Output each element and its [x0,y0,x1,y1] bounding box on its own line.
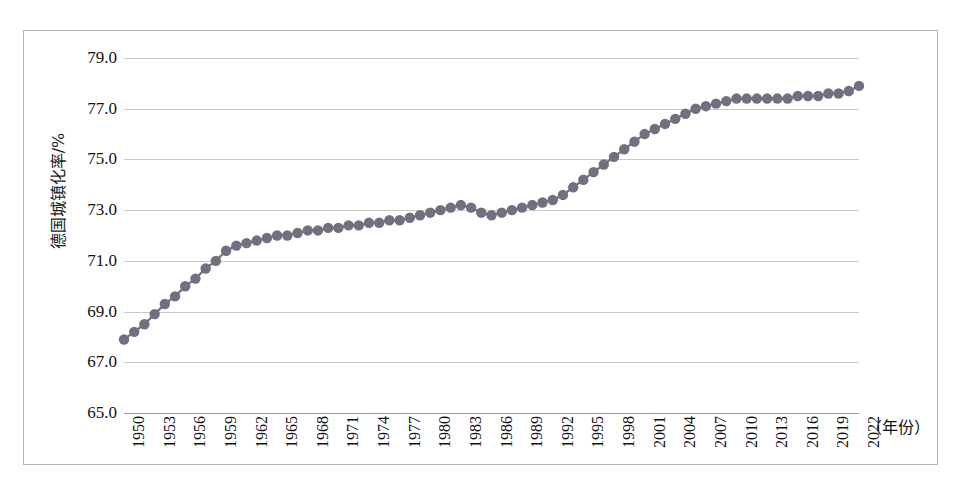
x-axis-tick-label: 2019 [834,416,852,448]
data-point [323,223,333,233]
data-point [844,86,854,96]
data-point [782,93,792,103]
data-point [170,291,180,301]
data-point [650,124,660,134]
data-point [435,205,445,215]
y-axis-tick-label: 79.0 [57,48,117,68]
data-point [343,220,353,230]
data-point [823,88,833,98]
y-axis-tick-label: 67.0 [57,352,117,372]
data-point [119,334,129,344]
data-point [333,223,343,233]
x-axis-tick-label: 1962 [253,416,271,448]
data-point [364,218,374,228]
data-point [701,101,711,111]
x-axis-tick-label: 2010 [743,416,761,448]
x-axis-tick-label: 1980 [436,416,454,448]
data-point [507,205,517,215]
data-point [354,220,364,230]
x-axis-tick-label: 1986 [498,416,516,448]
data-point [190,273,200,283]
data-point [517,202,527,212]
x-axis-tick-label: 1959 [222,416,240,448]
data-point [149,309,159,319]
x-axis-tick-label: 1968 [314,416,332,448]
data-point [200,263,210,273]
data-point [660,119,670,129]
data-point [742,93,752,103]
data-point [486,210,496,220]
data-point [803,91,813,101]
x-axis-tick-label: 1956 [191,416,209,448]
data-point [599,159,609,169]
data-point [476,207,486,217]
data-point [670,114,680,124]
data-point [609,152,619,162]
data-point [721,96,731,106]
data-point [639,129,649,139]
x-axis-tick-label: 1971 [344,416,362,448]
x-axis-unit-label: （年份） [866,414,930,438]
data-point [731,93,741,103]
plot-area: 79.077.075.073.071.069.067.065.0 1950195… [124,58,859,413]
data-point [241,238,251,248]
x-axis-tick-label: 1974 [375,416,393,448]
x-axis-line [124,413,859,414]
data-point [211,256,221,266]
x-axis-tick-label: 2013 [773,416,791,448]
x-axis-tick-label: 1983 [467,416,485,448]
x-axis-tick-label: 2016 [804,416,822,448]
data-point [272,230,282,240]
x-axis-tick-label: 1965 [283,416,301,448]
data-point [384,215,394,225]
chart-figure: 德国城镇化率/% 79.077.075.073.071.069.067.065.… [23,30,938,465]
y-axis-tick-label: 65.0 [57,403,117,423]
data-point [466,202,476,212]
data-point [252,235,262,245]
data-point [578,175,588,185]
data-point [813,91,823,101]
data-point [588,167,598,177]
x-axis-tick-label: 2004 [681,416,699,448]
y-axis-tick-label: 75.0 [57,149,117,169]
data-point [456,200,466,210]
data-point [292,228,302,238]
data-point [374,218,384,228]
x-axis-tick-label: 1977 [406,416,424,448]
data-point [619,144,629,154]
data-point [629,136,639,146]
data-point [793,91,803,101]
data-point [415,210,425,220]
data-point [527,200,537,210]
x-axis-tick-label: 1953 [161,416,179,448]
x-axis-tick-label: 1998 [620,416,638,448]
x-axis-tick-label: 1992 [559,416,577,448]
data-point [160,299,170,309]
data-point [833,88,843,98]
data-point [221,246,231,256]
x-axis-tick-label: 1950 [130,416,148,448]
data-point [303,225,313,235]
data-point [139,319,149,329]
x-axis-tick-label: 2001 [651,416,669,448]
data-point [568,182,578,192]
data-point [548,195,558,205]
y-axis-tick-label: 71.0 [57,251,117,271]
data-point [772,93,782,103]
data-point [129,327,139,337]
data-point [180,281,190,291]
y-axis-tick-label: 69.0 [57,302,117,322]
data-point [425,207,435,217]
data-point [394,215,404,225]
data-series [124,58,859,413]
data-point [558,190,568,200]
data-point [313,225,323,235]
series-markers [119,81,864,345]
data-point [680,109,690,119]
data-point [282,230,292,240]
data-point [497,207,507,217]
data-point [854,81,864,91]
data-point [262,233,272,243]
data-point [445,202,455,212]
data-point [231,240,241,250]
